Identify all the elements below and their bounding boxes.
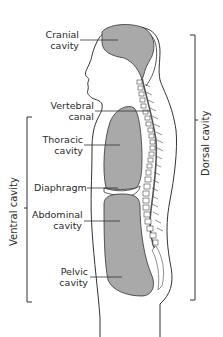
label-line: cavity (40, 145, 83, 156)
label-line: Thoracic (40, 134, 83, 145)
thoracic-cavity (104, 107, 142, 190)
label-ventral-cavity: Ventral cavity (8, 177, 19, 246)
dorsal-bracket (190, 35, 198, 300)
label-line: Vertebral (46, 100, 94, 111)
label-cranial-cavity: Cranial cavity (44, 29, 79, 51)
label-pelvic-cavity: Pelvic cavity (50, 266, 88, 288)
label-line: Pelvic (50, 266, 88, 277)
label-line: canal (46, 111, 94, 122)
label-vertebral-canal: Vertebral canal (46, 100, 94, 122)
label-dorsal-cavity: Dorsal cavity (200, 111, 211, 176)
label-diaphragm: Diaphragm (34, 182, 86, 193)
cranial-cavity (102, 25, 154, 80)
label-abdominal-cavity: Abdominal cavity (32, 209, 82, 231)
ventral-bracket (24, 117, 32, 302)
body-cavities-diagram (0, 0, 223, 337)
label-thoracic-cavity: Thoracic cavity (40, 134, 83, 156)
label-line: cavity (50, 277, 88, 288)
label-line: Cranial (44, 29, 79, 40)
label-line: Abdominal (32, 209, 82, 220)
label-line: cavity (44, 40, 79, 51)
label-line: cavity (32, 220, 82, 231)
label-line: Diaphragm (34, 182, 86, 193)
